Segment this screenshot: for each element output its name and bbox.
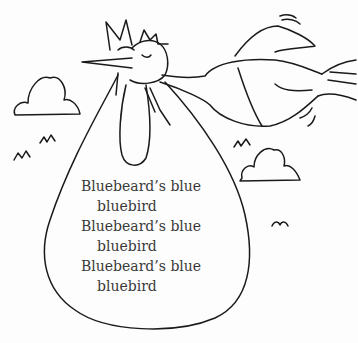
text-line: bluebird — [97, 196, 157, 216]
bundle-text: Bluebeard’s blue bluebird Bluebeard’s bl… — [0, 0, 358, 343]
text-line: Bluebeard’s blue — [81, 256, 201, 276]
text-line: bluebird — [97, 276, 157, 296]
illustration: Bluebeard’s blue bluebird Bluebeard’s bl… — [0, 0, 358, 343]
text-line: Bluebeard’s blue — [81, 176, 201, 196]
text-line: bluebird — [97, 236, 157, 256]
text-line: Bluebeard’s blue — [81, 216, 201, 236]
